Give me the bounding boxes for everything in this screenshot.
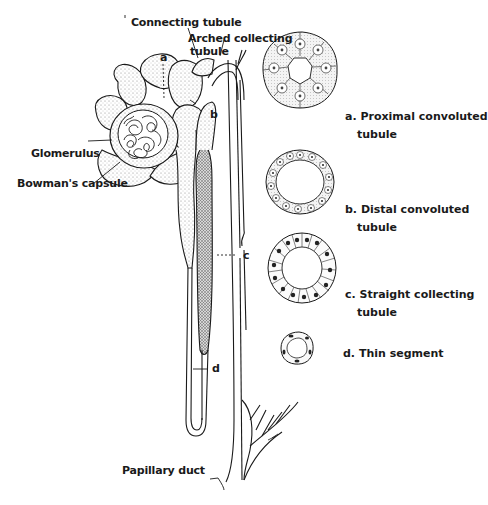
label-arched-collecting-tubule-line2: tubule <box>190 45 229 58</box>
legend-c-line1: c. Straight collecting <box>345 288 474 301</box>
bowmans-capsule <box>110 104 178 168</box>
label-connecting-tubule: Connecting tubule <box>131 16 241 29</box>
marker-b: b <box>210 108 218 121</box>
cross-section-d-icon <box>281 332 313 364</box>
cross-section-c-icon <box>268 233 336 303</box>
legend-b-line1: b. Distal convoluted <box>345 203 469 216</box>
legend-d-line1: d. Thin segment <box>343 347 444 360</box>
legend-c-line2: tubule <box>345 304 474 322</box>
legend-a-line1: a. Proximal convoluted <box>345 110 488 123</box>
label-glomerulus: Glomerulus <box>31 147 100 160</box>
label-papillary-duct: Papillary duct <box>122 464 205 477</box>
legend-item-d: d. Thin segment <box>343 345 444 363</box>
legend-item-b: b. Distal convoluted tubule <box>345 201 469 237</box>
legend-item-a: a. Proximal convoluted tubule <box>345 108 488 144</box>
marker-a: a <box>160 51 167 64</box>
marker-d: d <box>212 362 220 375</box>
legend-a-line2: tubule <box>345 126 488 144</box>
marker-c: c <box>243 249 249 262</box>
legend-b-line2: tubule <box>345 219 469 237</box>
label-bowmans-capsule: Bowman's capsule <box>17 177 128 190</box>
legend-item-c: c. Straight collecting tubule <box>345 286 474 322</box>
distal-and-loop <box>176 102 216 436</box>
label-arched-collecting-tubule-line1: Arched collecting <box>188 32 292 45</box>
cross-section-b-icon <box>266 150 334 214</box>
